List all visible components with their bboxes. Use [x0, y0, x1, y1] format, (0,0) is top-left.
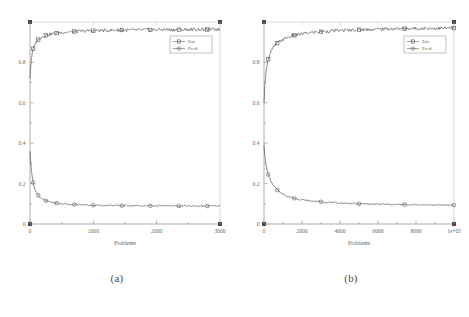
panel-b-caption: (b): [234, 272, 468, 284]
legend: Est.Pred.: [170, 36, 212, 53]
chart-a: 0100020003000Problems00.20.40.60.8Est.Pr…: [0, 0, 234, 272]
y-tick-label: 0.4: [19, 140, 26, 146]
legend-label: Est.: [422, 39, 430, 44]
y-tick-label: 0: [23, 221, 26, 227]
x-tick-label: 6000: [372, 228, 383, 234]
x-axis-title: Problems: [114, 240, 137, 246]
x-axis-title: Problems: [348, 240, 371, 246]
y-axis: 00.20.40.60.8: [19, 59, 34, 227]
y-tick-label: 0.2: [253, 181, 260, 187]
series-pred: [30, 151, 220, 208]
panel-a: 0100020003000Problems00.20.40.60.8Est.Pr…: [0, 0, 234, 317]
y-tick-label: 0.4: [253, 140, 260, 146]
x-tick-label: 3000: [214, 228, 225, 234]
legend-label: Pred.: [422, 46, 432, 51]
x-tick-label: 4000: [334, 228, 345, 234]
legend-label: Est.: [188, 39, 196, 44]
panel-a-caption: (a): [0, 272, 234, 284]
x-tick-label: 8000: [410, 228, 421, 234]
x-tick-label: 2000: [151, 228, 162, 234]
legend-label: Pred.: [188, 46, 198, 51]
panel-b: 020004000600080001e+05Problems00.20.40.6…: [234, 0, 468, 317]
x-tick-label: 0: [263, 228, 266, 234]
x-tick-label: 1e+05: [447, 228, 461, 234]
y-tick-label: 0.2: [19, 181, 26, 187]
plot-area: 020004000600080001e+05Problems00.20.40.6…: [234, 0, 468, 272]
y-tick-label: 0.8: [253, 59, 260, 65]
y-tick-label: 0.8: [19, 59, 26, 65]
y-axis: 00.20.40.60.8: [253, 59, 268, 227]
y-tick-label: 0.6: [253, 100, 260, 106]
plot-area: 0100020003000Problems00.20.40.60.8Est.Pr…: [0, 0, 234, 272]
x-tick-label: 0: [29, 228, 32, 234]
y-tick-label: 0: [257, 221, 260, 227]
series-pred: [264, 145, 456, 207]
legend: Est.Pred.: [404, 36, 446, 53]
x-tick-label: 1000: [88, 228, 99, 234]
chart-b: 020004000600080001e+05Problems00.20.40.6…: [234, 0, 468, 272]
y-tick-label: 0.6: [19, 100, 26, 106]
figure-container: 0100020003000Problems00.20.40.60.8Est.Pr…: [0, 0, 469, 317]
x-tick-label: 2000: [296, 228, 307, 234]
x-axis: 020004000600080001e+05: [263, 22, 462, 234]
